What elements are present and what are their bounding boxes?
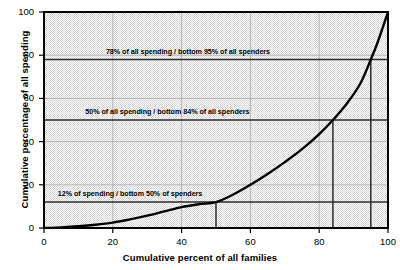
annotation-78-95: 78% of all spending / bottom 95% of all … — [106, 47, 270, 56]
x-tick-label-20: 20 — [93, 236, 133, 247]
annotation-12-50: 12% of spending / bottom 50% of spenders — [58, 189, 203, 198]
y-axis-title: Cumulative percentage of all spending — [19, 10, 30, 230]
x-tick-label-0: 0 — [24, 236, 64, 247]
x-tick-label-80: 80 — [299, 236, 339, 247]
x-tick-label-40: 40 — [162, 236, 202, 247]
x-tick-label-100: 100 — [368, 236, 400, 247]
chart-plot-area — [0, 0, 400, 270]
x-axis-title: Cumulative percent of all families — [0, 252, 400, 263]
x-tick-label-60: 60 — [230, 236, 270, 247]
annotation-50-84: 50% of all spending / bottom 84% of all … — [85, 107, 249, 116]
lorenz-curve-chart: 020406080100 020406080100 78% of all spe… — [0, 0, 400, 270]
